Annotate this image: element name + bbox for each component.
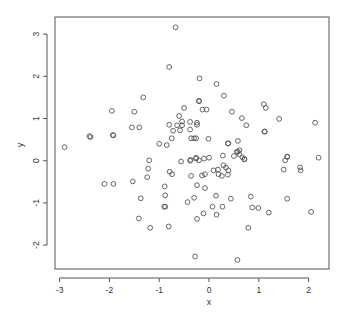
data-point [201, 211, 206, 216]
y-tick-label: 3 [31, 31, 41, 36]
data-point [102, 182, 107, 187]
data-point [167, 65, 172, 70]
y-axis: -2-10123 [31, 31, 47, 248]
data-point [309, 209, 314, 214]
data-point [188, 120, 193, 125]
data-point [169, 136, 174, 141]
data-point [185, 200, 190, 205]
y-tick-label: -2 [31, 241, 41, 249]
data-point [256, 206, 261, 211]
data-point [240, 116, 245, 121]
data-point [195, 217, 200, 222]
data-point [207, 155, 212, 160]
data-point [166, 224, 171, 229]
y-tick-label: 1 [31, 116, 41, 121]
data-point [162, 184, 167, 189]
data-point [62, 145, 67, 150]
data-point [195, 183, 200, 188]
x-tick-label: 1 [256, 285, 261, 295]
data-point [281, 167, 286, 172]
x-tick-label: -1 [155, 285, 163, 295]
data-point [266, 210, 271, 215]
data-point [130, 179, 135, 184]
data-point [157, 141, 162, 146]
data-point [214, 212, 219, 217]
data-point [179, 159, 184, 164]
data-point [141, 95, 146, 100]
data-point [202, 156, 207, 161]
y-tick-label: 2 [31, 74, 41, 79]
x-tick-label: -3 [56, 285, 64, 295]
data-point [211, 168, 216, 173]
data-point [222, 93, 227, 98]
data-point [171, 128, 176, 133]
data-point [230, 109, 235, 114]
data-point [182, 106, 187, 111]
data-point [206, 136, 211, 141]
data-point [197, 76, 202, 81]
data-point [164, 143, 169, 148]
data-point [203, 172, 208, 177]
data-point [167, 122, 172, 127]
data-point [250, 205, 255, 210]
data-points [62, 25, 321, 262]
data-point [132, 109, 137, 114]
data-point [248, 194, 253, 199]
data-point [148, 225, 153, 230]
scatter-plot: -3-2-1012 -2-10123 x y [0, 0, 344, 323]
data-point [298, 165, 303, 170]
data-point [193, 254, 198, 259]
data-point [216, 167, 221, 172]
data-point [203, 186, 208, 191]
data-point [214, 193, 219, 198]
data-point [173, 25, 178, 30]
data-point [188, 127, 193, 132]
x-tick-label: 2 [306, 285, 311, 295]
data-point [110, 109, 115, 114]
y-tick-label: -1 [31, 199, 41, 207]
data-point [313, 120, 318, 125]
x-tick-label: 0 [207, 285, 212, 295]
data-point [316, 155, 321, 160]
data-point [146, 166, 151, 171]
data-point [147, 158, 152, 163]
x-tick-label: -2 [106, 285, 114, 295]
data-point [138, 196, 143, 201]
y-axis-title: y [15, 142, 25, 147]
data-point [221, 153, 226, 158]
x-axis-title: x [207, 297, 212, 307]
data-point [136, 216, 141, 221]
data-point [220, 204, 225, 209]
plot-frame [55, 17, 329, 269]
data-point [163, 193, 168, 198]
data-point [214, 82, 219, 87]
data-point [246, 225, 251, 230]
data-point [232, 154, 237, 159]
data-point [236, 139, 241, 144]
data-point [244, 123, 249, 128]
y-tick-label: 0 [31, 158, 41, 163]
data-point [285, 196, 290, 201]
data-point [229, 196, 234, 201]
data-point [189, 174, 194, 179]
data-point [177, 114, 182, 119]
data-point [137, 125, 142, 130]
data-point [210, 204, 215, 209]
data-point [178, 128, 183, 133]
data-point [277, 117, 282, 122]
data-point [200, 173, 205, 178]
data-point [129, 125, 134, 130]
data-point [192, 195, 197, 200]
x-axis: -3-2-1012 [56, 278, 311, 295]
data-point [235, 258, 240, 263]
data-point [145, 175, 150, 180]
data-point [175, 123, 180, 128]
data-point [111, 182, 116, 187]
